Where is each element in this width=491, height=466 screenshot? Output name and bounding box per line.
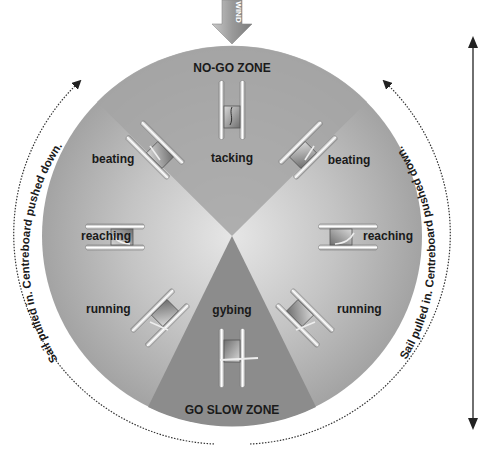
label-reaching-right: reaching xyxy=(363,229,413,243)
label-reaching-left: reaching xyxy=(81,229,131,243)
wind-arrow-icon: WIND xyxy=(212,0,252,44)
points-of-sail-diagram: WIND NO-GO ZONE GO SLOW ZONE tacking bea… xyxy=(0,0,491,466)
label-beating-left: beating xyxy=(92,152,135,166)
label-tacking: tacking xyxy=(211,151,253,165)
vertical-double-arrow-icon xyxy=(468,36,478,430)
wind-label: WIND xyxy=(234,1,243,23)
go-slow-zone-label: GO SLOW ZONE xyxy=(185,403,280,417)
label-running-left: running xyxy=(86,302,131,316)
label-beating-right: beating xyxy=(328,153,371,167)
label-running-right: running xyxy=(337,302,382,316)
no-go-zone-label: NO-GO ZONE xyxy=(193,61,270,75)
label-gybing: gybing xyxy=(212,303,251,317)
